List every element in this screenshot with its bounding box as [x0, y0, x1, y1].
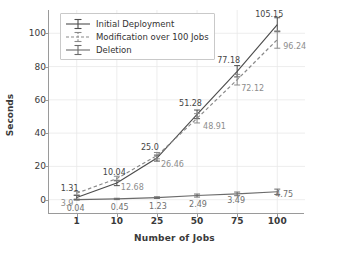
- data-point-label: 51.28: [179, 99, 202, 108]
- legend-item-initial-deployment: Initial Deployment: [65, 17, 209, 30]
- data-point-label: 48.91: [203, 122, 226, 131]
- data-point-label: 77.18: [217, 56, 240, 65]
- data-point-label: 1.31: [61, 184, 79, 193]
- data-point-label: 1.23: [149, 202, 167, 211]
- legend-key-solid-icon: [65, 18, 91, 30]
- data-point-label: 3.49: [227, 196, 245, 205]
- data-point-label: 0.45: [111, 203, 129, 212]
- legend-key-dashed-icon: [65, 31, 91, 43]
- data-point-label: 25.0: [141, 143, 159, 152]
- x-axis-spine: [48, 213, 304, 214]
- legend-item-modification: Modification over 100 Jobs: [65, 30, 209, 43]
- legend-label: Initial Deployment: [96, 19, 174, 29]
- legend-item-deletion: Deletion: [65, 43, 209, 56]
- data-point-label: 4.75: [275, 190, 293, 199]
- data-point-label: 10.04: [103, 168, 126, 177]
- chart-legend: Initial Deployment Modification over 100…: [60, 13, 215, 60]
- legend-key-solid-icon: [65, 44, 91, 56]
- data-point-label: 0.04: [67, 204, 85, 213]
- data-point-label: 72.12: [241, 84, 264, 93]
- data-point-label: 12.68: [121, 183, 144, 192]
- data-point-label: 105.15: [255, 10, 283, 19]
- y-axis-spine: [48, 10, 49, 213]
- x-axis-label: Number of Jobs: [0, 233, 349, 243]
- legend-label: Deletion: [96, 45, 132, 55]
- data-point-label: 2.49: [189, 200, 207, 209]
- legend-label: Modification over 100 Jobs: [96, 32, 209, 42]
- data-point-label: 26.46: [161, 160, 184, 169]
- chart-container: Seconds 020406080100 110255075100 1.3110…: [0, 0, 349, 255]
- data-point-label: 96.24: [283, 42, 306, 51]
